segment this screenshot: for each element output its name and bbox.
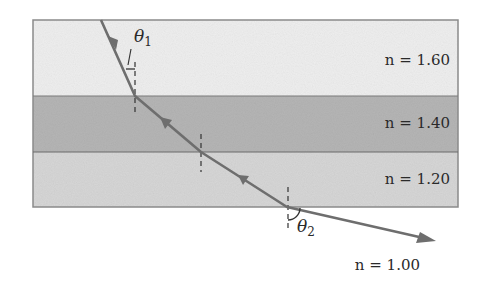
ray-end-arrow-icon bbox=[416, 232, 436, 243]
index-label-layer1: n = 1.60 bbox=[385, 51, 450, 69]
index-label-layer3: n = 1.20 bbox=[385, 170, 450, 188]
index-label-layer2: n = 1.40 bbox=[385, 114, 450, 132]
refraction-diagram: θ1 θ2 n = 1.60 n = 1.40 n = 1.20 n = 1.0… bbox=[0, 0, 485, 287]
theta2-label: θ2 bbox=[297, 216, 315, 239]
index-label-outside: n = 1.00 bbox=[355, 256, 420, 274]
